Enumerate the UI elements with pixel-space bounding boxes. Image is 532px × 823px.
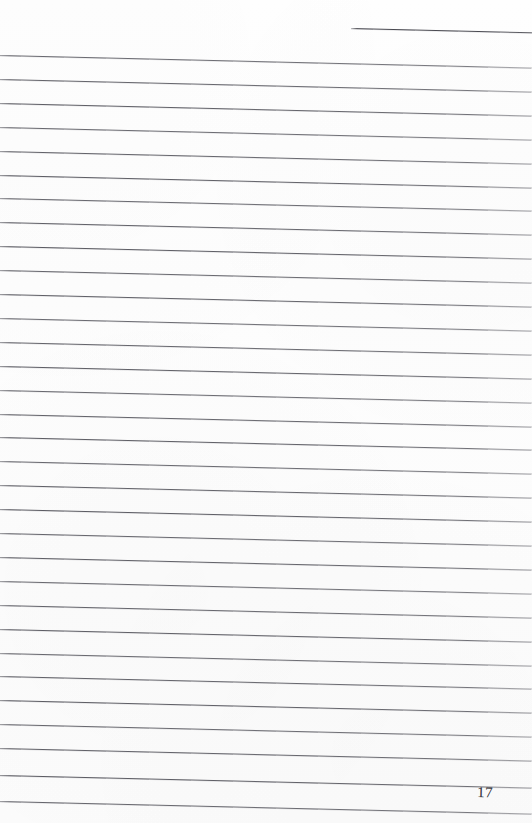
- rule-line: [0, 724, 532, 738]
- rule-line: [0, 55, 532, 69]
- rule-line: [0, 775, 532, 789]
- rule-line: [0, 676, 532, 690]
- paper-background: [0, 0, 532, 823]
- rule-line-partial-top: [351, 28, 532, 33]
- rule-line: [0, 509, 532, 523]
- rule-line: [0, 581, 532, 595]
- scanned-page: 17: [0, 0, 532, 823]
- page-number: 17: [477, 785, 493, 800]
- rule-line: [0, 198, 532, 212]
- rule-line: [0, 175, 532, 189]
- rule-line: [0, 222, 532, 236]
- rule-line: [0, 79, 532, 93]
- rule-line: [0, 414, 532, 428]
- rule-line: [0, 700, 532, 714]
- rule-line: [0, 533, 532, 547]
- rule-line: [0, 151, 532, 165]
- rule-line: [0, 342, 532, 356]
- rule-line: [0, 246, 532, 260]
- rule-line: [0, 557, 532, 571]
- scan-grain-overlay: [0, 0, 532, 823]
- rule-line: [0, 270, 532, 284]
- rule-line: [0, 629, 532, 643]
- rule-line: [0, 605, 532, 619]
- rule-line: [0, 318, 532, 332]
- rule-line: [0, 294, 532, 308]
- rule-line: [0, 127, 532, 141]
- rule-line: [0, 485, 532, 499]
- rule-line: [0, 390, 532, 404]
- rule-line: [0, 437, 532, 451]
- rule-line: [0, 366, 532, 380]
- rule-line: [0, 103, 532, 117]
- rule-line: [0, 748, 532, 762]
- rule-line: [0, 801, 532, 815]
- rule-line: [0, 461, 532, 475]
- rule-line: [0, 653, 532, 667]
